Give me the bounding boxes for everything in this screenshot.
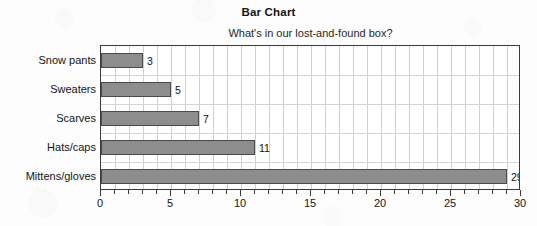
vertical-gridline: [311, 46, 312, 189]
x-axis-major-tick: [450, 190, 451, 196]
category-label: Scarves: [0, 113, 96, 124]
x-axis-minor-tick: [394, 190, 395, 194]
x-axis-minor-tick: [212, 190, 213, 194]
x-axis-minor-tick: [338, 190, 339, 194]
x-axis-minor-tick: [352, 190, 353, 194]
bar: [101, 82, 171, 97]
bar-value-label: 3: [147, 56, 153, 67]
x-axis-tick-label: 25: [444, 198, 456, 209]
vertical-gridline: [199, 46, 200, 189]
vertical-gridline: [241, 46, 242, 189]
x-axis-minor-tick: [198, 190, 199, 194]
horizontal-gridline: [101, 104, 519, 105]
x-axis-major-tick: [240, 190, 241, 196]
x-axis-tick-label: 5: [167, 198, 173, 209]
x-axis-minor-tick: [324, 190, 325, 194]
vertical-gridline: [451, 46, 452, 189]
vertical-gridline: [213, 46, 214, 189]
vertical-gridline: [353, 46, 354, 189]
x-axis-major-tick: [520, 190, 521, 196]
x-axis-minor-tick: [436, 190, 437, 194]
vertical-gridline: [325, 46, 326, 189]
x-axis-minor-tick: [366, 190, 367, 194]
x-axis-major-tick: [100, 190, 101, 196]
vertical-gridline: [367, 46, 368, 189]
bar-value-label: 29: [511, 172, 520, 183]
x-axis-tick-label: 20: [374, 198, 386, 209]
horizontal-gridline: [101, 133, 519, 134]
category-label: Mittens/gloves: [0, 171, 96, 182]
bar-value-label: 5: [175, 85, 181, 96]
bar-value-label: 7: [203, 114, 209, 125]
vertical-gridline: [339, 46, 340, 189]
x-axis-minor-tick: [464, 190, 465, 194]
chart-title: Bar Chart: [0, 6, 537, 18]
vertical-gridline: [255, 46, 256, 189]
horizontal-gridline: [101, 162, 519, 163]
bar-chart-figure: Bar Chart What's in our lost-and-found b…: [0, 0, 537, 226]
vertical-gridline: [479, 46, 480, 189]
vertical-gridline: [395, 46, 396, 189]
x-axis-minor-tick: [296, 190, 297, 194]
x-axis-minor-tick: [282, 190, 283, 194]
x-axis-minor-tick: [254, 190, 255, 194]
vertical-gridline: [297, 46, 298, 189]
vertical-gridline: [493, 46, 494, 189]
x-axis-minor-tick: [506, 190, 507, 194]
vertical-gridline: [465, 46, 466, 189]
vertical-gridline: [437, 46, 438, 189]
x-axis-minor-tick: [142, 190, 143, 194]
x-axis-minor-tick: [156, 190, 157, 194]
x-axis-major-tick: [170, 190, 171, 196]
x-axis-tick-label: 0: [97, 198, 103, 209]
category-label: Sweaters: [0, 84, 96, 95]
chart-subtitle: What's in our lost-and-found box?: [53, 27, 537, 39]
x-axis-minor-tick: [408, 190, 409, 194]
horizontal-gridline: [101, 75, 519, 76]
bar: [101, 111, 199, 126]
bar: [101, 140, 255, 155]
x-axis-tick-label: 15: [304, 198, 316, 209]
x-axis-tick-label: 30: [514, 198, 526, 209]
vertical-gridline: [227, 46, 228, 189]
bar-value-label: 11: [259, 143, 270, 154]
x-axis-minor-tick: [226, 190, 227, 194]
x-axis-minor-tick: [184, 190, 185, 194]
bar: [101, 53, 143, 68]
x-axis-tick-label: 10: [234, 198, 246, 209]
plot-area: 3571129: [100, 45, 520, 190]
x-axis-minor-tick: [128, 190, 129, 194]
vertical-gridline: [269, 46, 270, 189]
x-axis-minor-tick: [492, 190, 493, 194]
x-axis-major-tick: [380, 190, 381, 196]
vertical-gridline: [423, 46, 424, 189]
category-label: Snow pants: [0, 55, 96, 66]
x-axis-major-tick: [310, 190, 311, 196]
x-axis-minor-tick: [268, 190, 269, 194]
vertical-gridline: [507, 46, 508, 189]
category-label: Hats/caps: [0, 142, 96, 153]
bar: [101, 169, 507, 184]
vertical-gridline: [283, 46, 284, 189]
vertical-gridline: [409, 46, 410, 189]
x-axis-minor-tick: [114, 190, 115, 194]
x-axis-minor-tick: [422, 190, 423, 194]
x-axis-minor-tick: [478, 190, 479, 194]
vertical-gridline: [381, 46, 382, 189]
